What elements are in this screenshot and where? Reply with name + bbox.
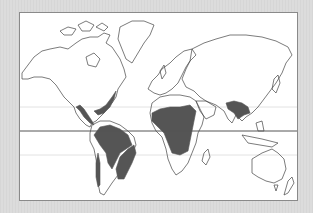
australia-outline [252,149,286,183]
hudson-bay-outline [86,53,100,67]
world-map [20,13,297,200]
map-frame [19,12,298,201]
indonesia-outline [242,121,278,147]
shaded-us-east-coast-region [94,91,116,115]
arctic-islands-outline [60,21,108,35]
tasmania-outline [274,185,278,191]
shaded-africa-region [152,105,196,155]
north-america-outline [22,33,126,127]
greenland-outline [118,21,154,63]
madagascar-outline [202,149,210,165]
japan-outline [272,75,280,93]
shaded-andes-strip-region [96,153,100,187]
shaded-mexico-gulf-region [76,105,94,125]
shaded-india-region [226,101,250,119]
new-zealand-outline [284,177,294,195]
